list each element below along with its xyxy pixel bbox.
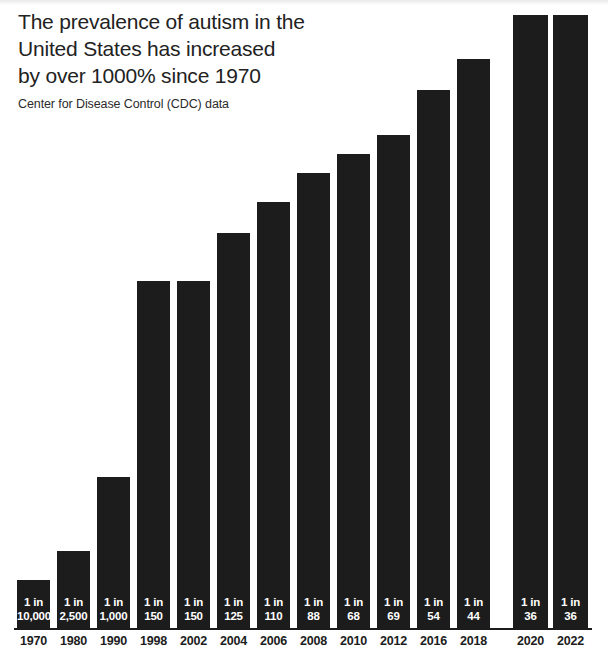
x-tick-label-1998: 1998 xyxy=(131,634,176,648)
x-tick-label-2008: 2008 xyxy=(291,634,336,648)
bar-value-label: 1 in44 xyxy=(457,596,490,623)
bar-value-label-line2: 88 xyxy=(297,610,330,624)
bar-value-label-line1: 1 in xyxy=(57,596,90,610)
bar-value-label: 1 in1,000 xyxy=(97,596,130,623)
bar-2006: 1 in110 xyxy=(257,202,290,629)
x-tick-label-2010: 2010 xyxy=(331,634,376,648)
bar-value-label-line1: 1 in xyxy=(457,596,490,610)
bar-value-label-line2: 110 xyxy=(257,610,290,624)
bar-value-label: 1 in150 xyxy=(137,596,170,623)
bar-2010: 1 in68 xyxy=(337,154,370,629)
bar-value-label-line1: 1 in xyxy=(137,596,170,610)
bar-value-label-line1: 1 in xyxy=(297,596,330,610)
bar-value-label-line1: 1 in xyxy=(217,596,250,610)
bar-2018: 1 in44 xyxy=(457,59,490,629)
bar-value-label: 1 in69 xyxy=(377,596,410,623)
bar-value-label-line2: 10,000 xyxy=(17,610,50,624)
bar-2022: 1 in36 xyxy=(553,15,588,629)
x-tick-label-2022: 2022 xyxy=(547,634,594,648)
bar-value-label-line1: 1 in xyxy=(97,596,130,610)
bar-value-label-line2: 68 xyxy=(337,610,370,624)
bar-value-label-line2: 150 xyxy=(177,610,210,624)
x-tick-label-2002: 2002 xyxy=(171,634,216,648)
bar-1970: 1 in10,000 xyxy=(17,580,50,629)
bar-2002: 1 in150 xyxy=(177,281,210,629)
bar-2008: 1 in88 xyxy=(297,173,330,629)
bar-value-label: 1 in68 xyxy=(337,596,370,623)
bar-value-label: 1 in10,000 xyxy=(17,596,50,623)
x-tick-label-2004: 2004 xyxy=(211,634,256,648)
bar-value-label-line2: 44 xyxy=(457,610,490,624)
bar-value-label-line1: 1 in xyxy=(337,596,370,610)
x-tick-label-2016: 2016 xyxy=(411,634,456,648)
bar-value-label: 1 in110 xyxy=(257,596,290,623)
x-tick-label-2006: 2006 xyxy=(251,634,296,648)
bar-2020: 1 in36 xyxy=(513,15,548,629)
bar-1980: 1 in2,500 xyxy=(57,551,90,629)
bar-2016: 1 in54 xyxy=(417,90,450,629)
bar-value-label-line1: 1 in xyxy=(513,596,548,610)
x-tick-label-2018: 2018 xyxy=(451,634,496,648)
bar-value-label-line1: 1 in xyxy=(177,596,210,610)
x-tick-label-2012: 2012 xyxy=(371,634,416,648)
bar-value-label-line2: 36 xyxy=(513,610,548,624)
bar-value-label-line1: 1 in xyxy=(417,596,450,610)
bar-value-label: 1 in2,500 xyxy=(57,596,90,623)
bar-value-label-line1: 1 in xyxy=(17,596,50,610)
bar-value-label-line2: 2,500 xyxy=(57,610,90,624)
x-tick-label-1970: 1970 xyxy=(11,634,56,648)
bar-value-label-line2: 125 xyxy=(217,610,250,624)
bar-value-label: 1 in54 xyxy=(417,596,450,623)
bar-value-label-line1: 1 in xyxy=(257,596,290,610)
chart-page: The prevalence of autism in the United S… xyxy=(0,0,608,658)
bar-value-label: 1 in36 xyxy=(513,596,548,623)
bar-2004: 1 in125 xyxy=(217,233,250,629)
bar-value-label-line2: 54 xyxy=(417,610,450,624)
bar-value-label: 1 in36 xyxy=(553,596,588,623)
bar-value-label-line1: 1 in xyxy=(553,596,588,610)
bar-value-label-line1: 1 in xyxy=(377,596,410,610)
bar-chart-plot: 1 in10,00019701 in2,50019801 in1,0001990… xyxy=(0,0,608,658)
bar-1990: 1 in1,000 xyxy=(97,477,130,629)
x-tick-label-1990: 1990 xyxy=(91,634,136,648)
bar-value-label-line2: 69 xyxy=(377,610,410,624)
x-tick-label-1980: 1980 xyxy=(51,634,96,648)
bar-value-label: 1 in125 xyxy=(217,596,250,623)
bar-value-label: 1 in150 xyxy=(177,596,210,623)
bar-value-label-line2: 150 xyxy=(137,610,170,624)
bar-value-label: 1 in88 xyxy=(297,596,330,623)
bar-value-label-line2: 1,000 xyxy=(97,610,130,624)
bar-value-label-line2: 36 xyxy=(553,610,588,624)
bar-1998: 1 in150 xyxy=(137,281,170,629)
bar-2012: 1 in69 xyxy=(377,135,410,629)
